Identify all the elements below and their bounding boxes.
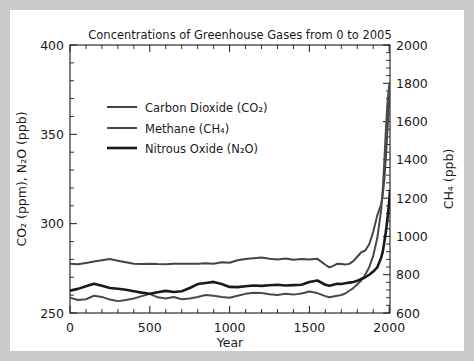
y-right-axis-label: CH₄ (ppb) (441, 149, 456, 210)
x-tick-label: 1500 (293, 320, 325, 335)
x-tick-label: 1000 (214, 320, 246, 335)
chart-canvas: Concentrations of Greenhouse Gases from … (10, 10, 464, 351)
y-tick-label: 1800 (396, 76, 428, 91)
y-tick-label: 1200 (396, 191, 428, 206)
y-tick-label: 250 (40, 306, 64, 321)
y-tick-label: 800 (396, 267, 420, 282)
greenhouse-gas-chart: Concentrations of Greenhouse Gases from … (10, 10, 464, 351)
legend-label-1: Methane (CH₄) (145, 122, 229, 136)
y-tick-label: 1400 (396, 152, 428, 167)
chart-title: Concentrations of Greenhouse Gases from … (88, 28, 391, 42)
legend-label-2: Nitrous Oxide (N₂O) (145, 142, 258, 156)
legend-label-0: Carbon Dioxide (CO₂) (145, 101, 268, 115)
y-tick-label: 600 (396, 306, 420, 321)
y-left-axis-label: CO₂ (ppm), N₂O (ppb) (14, 111, 29, 246)
x-tick-label: 0 (66, 320, 74, 335)
x-tick-label: 2000 (373, 320, 405, 335)
y-tick-label: 2000 (396, 38, 428, 53)
x-axis-label: Year (216, 335, 244, 350)
x-tick-label: 500 (138, 320, 162, 335)
y-tick-label: 1000 (396, 229, 428, 244)
y-tick-label: 400 (40, 38, 64, 53)
figure-page: Concentrations of Greenhouse Gases from … (10, 10, 464, 351)
y-tick-label: 1600 (396, 114, 428, 129)
y-tick-label: 350 (40, 127, 64, 142)
y-tick-label: 300 (40, 216, 64, 231)
